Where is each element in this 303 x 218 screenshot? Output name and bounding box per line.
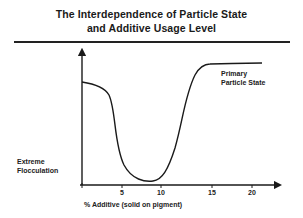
chart-plot: [0, 0, 303, 218]
primary-particle-state-label: Primary Particle State: [221, 70, 265, 87]
x-tick-15: 15: [208, 189, 216, 196]
x-tick-20: 20: [248, 189, 256, 196]
primary-label-line-1: Primary: [221, 70, 265, 79]
floc-label-line-1: Extreme: [17, 158, 58, 167]
primary-label-line-2: Particle State: [221, 79, 265, 88]
extreme-flocculation-label: Extreme Flocculation: [17, 158, 58, 175]
floc-label-line-2: Flocculation: [17, 167, 58, 176]
x-axis-label: % Additive (solid on pigment): [84, 201, 182, 210]
x-tick-5: 5: [120, 189, 124, 196]
x-tick-10: 10: [157, 189, 165, 196]
